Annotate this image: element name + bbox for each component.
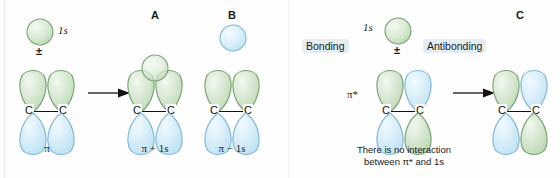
orbital-interaction-figure: 1s ± C C π A	[0, 0, 560, 178]
panel-divider	[288, 0, 289, 178]
lobe-bottom-left	[491, 112, 521, 160]
s-orbital-reactant-left	[26, 18, 54, 46]
lobe-bottom-right	[519, 112, 549, 160]
no-interaction-caption-line-1: There is no interaction	[357, 144, 451, 156]
pi-star-label-reactant: π*	[347, 88, 358, 101]
product-tag-b: B	[228, 9, 236, 22]
product-caption-a: π + 1s	[141, 142, 168, 155]
antibonding-annotation: Antibonding	[423, 40, 486, 53]
product-tag-c: C	[516, 9, 524, 22]
no-interaction-caption-line-2: between π* and 1s	[357, 156, 451, 168]
s-orbital-label-left: 1s	[58, 24, 68, 37]
combination-symbol-left: ±	[36, 45, 42, 58]
no-interaction-caption: There is no interaction between π* and 1…	[357, 144, 451, 168]
product-tag-a: A	[151, 9, 159, 22]
pi-label-reactant: π	[44, 142, 50, 155]
s-orbital-merged-a	[141, 54, 169, 82]
antibonding-label: Antibonding	[423, 39, 486, 53]
lobe-bottom-right	[46, 112, 76, 160]
s-orbital-b	[219, 24, 247, 52]
product-c-orbital-group: C C	[478, 58, 560, 166]
bonding-annotation: Bonding	[302, 40, 349, 53]
bonding-label: Bonding	[302, 39, 349, 53]
product-caption-b: π − 1s	[218, 142, 245, 155]
s-orbital-label-right: 1s	[363, 21, 373, 34]
